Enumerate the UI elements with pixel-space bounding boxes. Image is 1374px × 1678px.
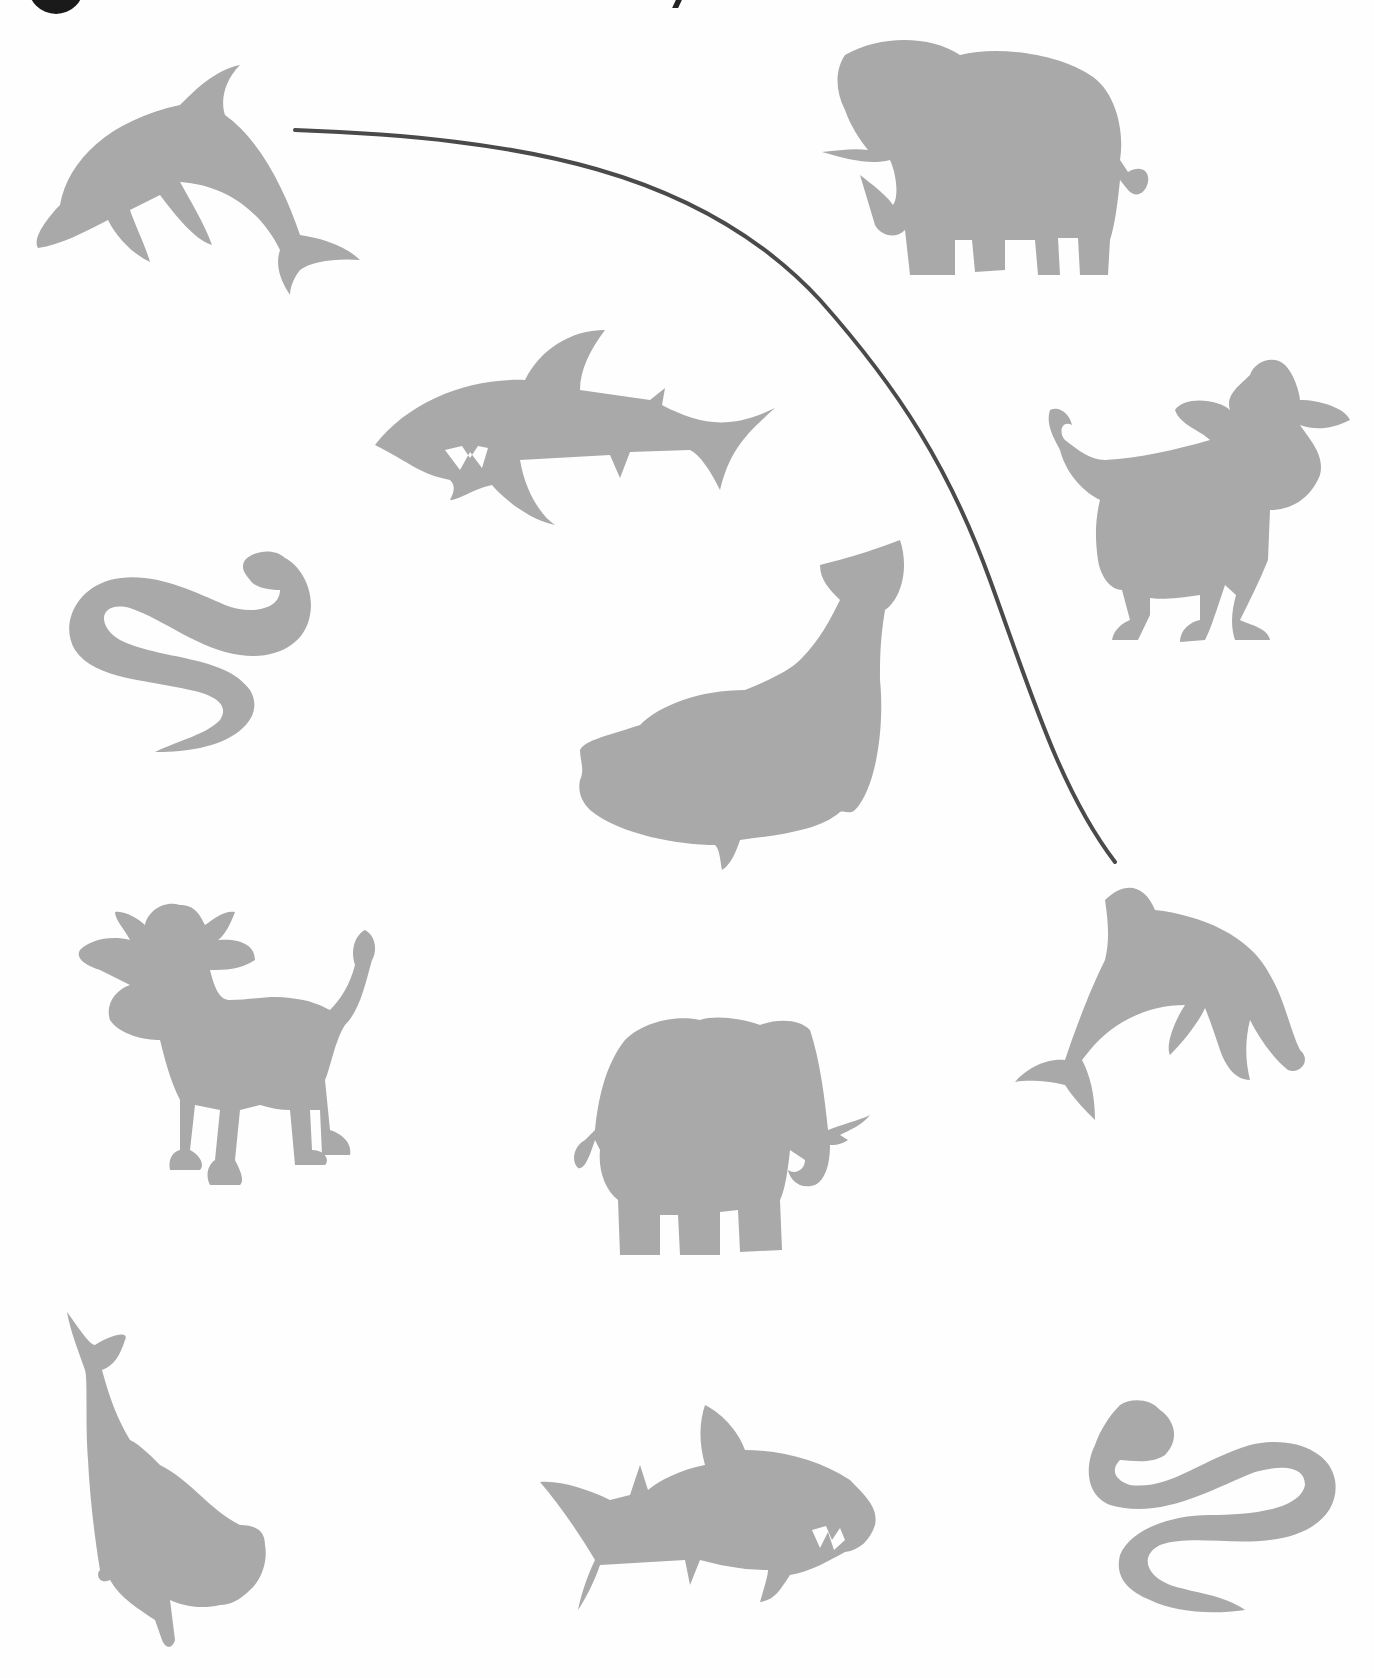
worm-icon[interactable]	[69, 551, 311, 752]
elephant-icon[interactable]	[574, 1018, 870, 1255]
shark-icon[interactable]	[540, 1405, 876, 1610]
matching-worksheet: example match line	[0, 0, 1374, 1678]
elephant-icon[interactable]	[822, 40, 1148, 275]
dolphin-icon[interactable]	[1015, 888, 1305, 1120]
whale-icon[interactable]	[579, 540, 904, 870]
shark-icon[interactable]	[375, 330, 775, 525]
worm-icon[interactable]	[1089, 1400, 1336, 1612]
worksheet-canvas	[0, 0, 1374, 1678]
dolphin-icon[interactable]	[37, 65, 360, 295]
cow-icon[interactable]	[1049, 360, 1350, 642]
cow-icon[interactable]	[79, 904, 375, 1185]
whale-icon[interactable]	[67, 1312, 266, 1647]
